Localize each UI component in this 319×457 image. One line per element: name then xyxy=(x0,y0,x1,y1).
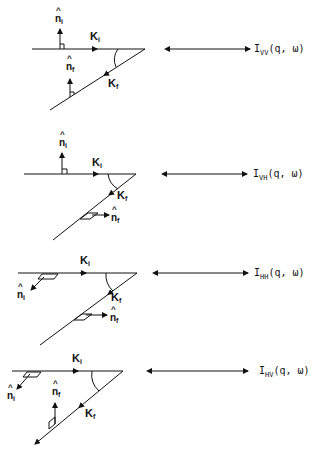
scattered-beam-line xyxy=(50,49,145,110)
k-f-label: Kf xyxy=(111,292,121,304)
polarization-plane-mark xyxy=(49,417,55,429)
scattered-beam-line xyxy=(53,174,136,240)
intensity-vv-label: IVV(q, ω) xyxy=(254,44,305,57)
right-angle-mark xyxy=(60,44,64,49)
polarization-plane-mark xyxy=(23,372,41,377)
k-i-label: Ki xyxy=(92,157,102,169)
n-f-label: ^nf xyxy=(110,313,118,324)
scattered-beam-line xyxy=(40,273,137,345)
intensity-vh-label: IVH(q, ω) xyxy=(253,169,304,182)
panel-vv-geometry xyxy=(32,29,145,110)
k-i-label: Ki xyxy=(80,255,90,267)
scattering-angle-arc xyxy=(106,273,113,291)
panel-hv-geometry xyxy=(12,371,123,444)
n-f-label: ^nf xyxy=(66,62,74,73)
n-f-label: ^nf xyxy=(52,387,60,398)
scattering-angle-arc xyxy=(92,371,99,391)
k-f-label: Kf xyxy=(117,190,127,202)
k-f-arrow xyxy=(109,192,113,195)
k-f-label: Kf xyxy=(85,408,95,420)
n-i-label: ^ni xyxy=(59,138,67,149)
k-f-arrow xyxy=(79,404,83,408)
intensity-hv-label: IHV(q, ω) xyxy=(259,366,310,379)
k-f-label: Kf xyxy=(108,78,118,90)
right-angle-mark xyxy=(70,92,74,95)
k-i-label: Ki xyxy=(90,31,100,43)
panel-hh-geometry xyxy=(18,273,137,345)
polarization-plane-mark xyxy=(38,274,58,279)
n-i-label: ^ni xyxy=(55,14,63,25)
n-i-label: ^ni xyxy=(17,290,25,301)
k-f-arrow xyxy=(104,73,108,76)
scattering-geometry-diagram xyxy=(0,0,319,457)
intensity-hh-label: IHH(q, ω) xyxy=(254,268,305,281)
scattering-angle-arc xyxy=(114,49,118,67)
scattering-angle-arc xyxy=(108,174,118,189)
k-i-label: Ki xyxy=(72,353,82,365)
n-f-label: ^nf xyxy=(111,213,119,224)
n-i-label: ^ni xyxy=(7,391,15,402)
right-angle-mark xyxy=(62,169,67,174)
